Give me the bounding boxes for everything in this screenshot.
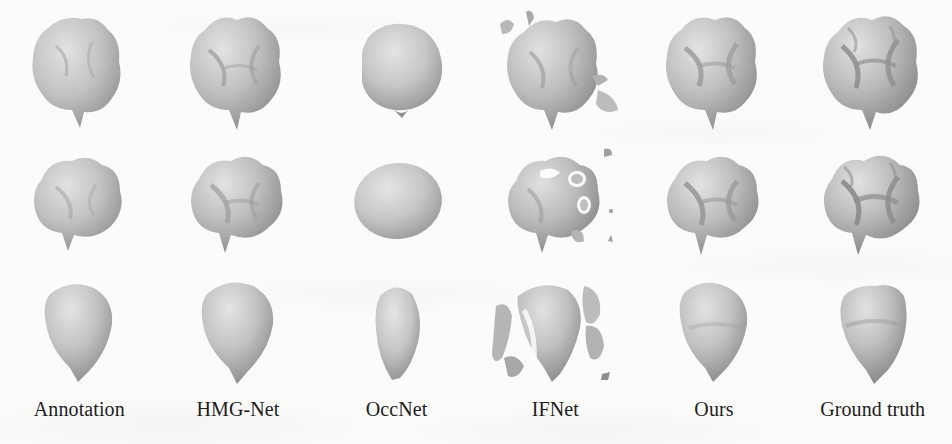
caption-label: Ground truth [820, 398, 925, 421]
mesh-occnet-row2 [317, 142, 476, 266]
mesh-hmg-net-row2 [159, 142, 318, 266]
mesh-hmg-net-row1 [159, 0, 318, 142]
caption-label: HMG-Net [197, 398, 280, 421]
mesh-ifnet-row3 [476, 266, 635, 394]
mesh-annotation-row1 [0, 0, 159, 142]
caption-annotation: Annotation [0, 394, 159, 444]
caption-hmg-net: HMG-Net [159, 394, 318, 444]
caption-label: IFNet [532, 398, 579, 421]
mesh-ours-row2 [635, 142, 794, 266]
mesh-ground-truth-row2 [793, 142, 952, 266]
caption-occnet: OccNet [317, 394, 476, 444]
mesh-ground-truth-row3 [793, 266, 952, 394]
figure-grid: Annotation HMG-Net OccNet IFNet Ours Gro… [0, 0, 952, 444]
caption-label: OccNet [366, 398, 428, 421]
mesh-ours-row3 [635, 266, 794, 394]
mesh-occnet-row1 [317, 0, 476, 142]
mesh-annotation-row2 [0, 142, 159, 266]
mesh-ground-truth-row1 [793, 0, 952, 142]
mesh-hmg-net-row3 [159, 266, 318, 394]
caption-label: Ours [694, 398, 733, 421]
mesh-ifnet-row1 [476, 0, 635, 142]
mesh-ours-row1 [635, 0, 794, 142]
mesh-annotation-row3 [0, 266, 159, 394]
mesh-ifnet-row2 [476, 142, 635, 266]
caption-ifnet: IFNet [476, 394, 635, 444]
caption-label: Annotation [34, 398, 125, 421]
caption-ground-truth: Ground truth [793, 394, 952, 444]
mesh-occnet-row3 [317, 266, 476, 394]
caption-ours: Ours [635, 394, 794, 444]
